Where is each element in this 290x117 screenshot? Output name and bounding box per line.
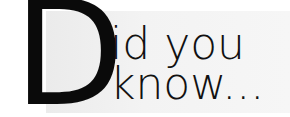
drop-cap: D: [14, 0, 122, 117]
heading-line-2: know...: [110, 62, 264, 106]
